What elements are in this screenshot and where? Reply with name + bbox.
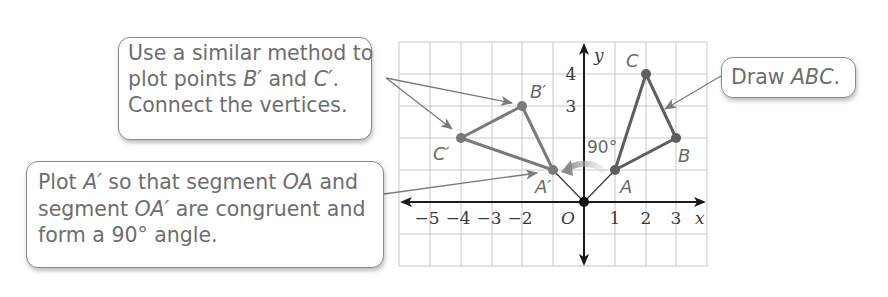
text-abc: ABC bbox=[791, 65, 833, 89]
text-c-prime: C′ bbox=[314, 67, 333, 91]
x-tick-neg3: −3 bbox=[476, 208, 501, 228]
angle-label: 90° bbox=[587, 137, 617, 157]
label-b: B bbox=[678, 145, 690, 166]
x-tick-3: 3 bbox=[671, 208, 682, 228]
callout-draw-abc: Draw ABC. bbox=[721, 57, 856, 98]
text-oa-prime: OA′ bbox=[134, 197, 169, 221]
callout-line: Connect the vertices. bbox=[128, 92, 371, 118]
point-a-prime bbox=[548, 165, 558, 175]
label-a: A bbox=[619, 176, 632, 197]
y-tick-3: 3 bbox=[566, 96, 577, 116]
rotation-diagram: −5 −4 −3 −2 O 1 2 3 x 4 3 y bbox=[0, 0, 888, 297]
callout-plot-a-prime: Plot A′ so that segment OA and segment O… bbox=[26, 161, 384, 268]
y-axis-label: y bbox=[593, 45, 604, 65]
text-plot-points: plot points bbox=[128, 67, 243, 91]
point-c bbox=[641, 69, 651, 79]
callout-line: segment OA′ are congruent and bbox=[38, 196, 383, 223]
y-tick-4: 4 bbox=[566, 64, 577, 84]
x-tick-neg4: −4 bbox=[445, 208, 470, 228]
text: segment bbox=[38, 197, 134, 221]
callout-line: Draw ABC. bbox=[731, 64, 855, 90]
label-c: C bbox=[626, 50, 639, 71]
point-a bbox=[610, 165, 620, 175]
x-tick-neg2: −2 bbox=[507, 208, 532, 228]
text-a-prime: A′ bbox=[83, 170, 102, 194]
x-tick-neg5: −5 bbox=[414, 208, 439, 228]
text-and: and bbox=[262, 67, 314, 91]
text: Plot bbox=[38, 170, 83, 194]
point-b bbox=[671, 133, 681, 143]
text: Draw bbox=[731, 65, 791, 89]
callout-similar-method: Use a similar method to plot points B′ a… bbox=[118, 37, 372, 140]
x-tick-2: 2 bbox=[641, 208, 652, 228]
callout-line: Plot A′ so that segment OA and bbox=[38, 169, 383, 196]
origin-label: O bbox=[561, 208, 575, 228]
origin-point bbox=[579, 197, 589, 207]
text-b-prime: B′ bbox=[243, 67, 262, 91]
callout-line: form a 90° angle. bbox=[38, 222, 383, 249]
point-b-prime bbox=[517, 101, 527, 111]
label-a-prime: A′ bbox=[534, 176, 551, 197]
callout-line: Use a similar method to bbox=[128, 40, 371, 66]
point-c-prime bbox=[456, 133, 466, 143]
x-tick-1: 1 bbox=[610, 208, 621, 228]
text: and bbox=[313, 170, 358, 194]
text: . bbox=[833, 65, 840, 89]
text-oa: OA bbox=[283, 170, 313, 194]
callout-line: plot points B′ and C′. bbox=[128, 66, 371, 92]
x-axis-label: x bbox=[695, 208, 705, 228]
label-c-prime: C′ bbox=[433, 143, 450, 164]
text-period: . bbox=[333, 67, 340, 91]
label-b-prime: B′ bbox=[530, 81, 546, 102]
text: so that segment bbox=[102, 170, 283, 194]
text: are congruent and bbox=[169, 197, 365, 221]
